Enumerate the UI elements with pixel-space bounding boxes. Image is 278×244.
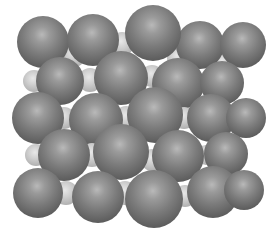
large-sphere [13, 168, 63, 218]
crystal-lattice-render [0, 0, 278, 244]
large-sphere [125, 170, 183, 228]
large-sphere [224, 170, 264, 210]
large-sphere [125, 5, 181, 61]
large-sphere [72, 171, 124, 223]
